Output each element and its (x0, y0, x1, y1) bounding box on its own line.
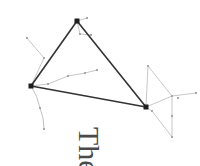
faint-node (67, 75, 69, 77)
figure-canvas: The (0, 0, 200, 166)
faint-node (90, 34, 92, 36)
faint-node (26, 37, 28, 39)
primary-node (29, 84, 34, 89)
faint-node (195, 92, 197, 94)
faint-node (86, 17, 88, 19)
faint-node (84, 72, 86, 74)
faint-node (43, 57, 45, 59)
faint-node (171, 136, 173, 138)
figure-background (0, 0, 200, 166)
primary-node (144, 105, 149, 110)
faint-node (79, 33, 81, 35)
faint-node (47, 83, 49, 85)
faint-node (171, 115, 173, 117)
faint-node (39, 107, 41, 109)
faint-node (96, 69, 98, 71)
faint-node (151, 110, 153, 112)
faint-node (171, 95, 173, 97)
faint-node (147, 65, 149, 67)
network-diagram-svg (0, 0, 200, 166)
faint-node (43, 128, 45, 130)
primary-node (75, 19, 80, 24)
faint-node (177, 97, 179, 99)
